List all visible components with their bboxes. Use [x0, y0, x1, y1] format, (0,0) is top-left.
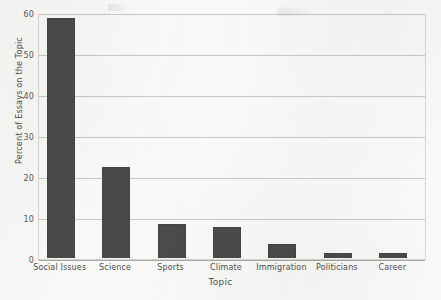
- scan-artifact-smudge-left: [108, 4, 134, 11]
- x-tick-label-social-issues: Social Issues: [33, 263, 86, 272]
- y-tick-label-60: 60: [4, 10, 34, 19]
- bar-series: [39, 15, 425, 259]
- bar-social-issues: [47, 18, 75, 258]
- x-tick-label-politicians: Politicians: [316, 263, 358, 272]
- y-tick-label-40: 40: [4, 92, 34, 101]
- y-tick-label-50: 50: [4, 51, 34, 60]
- x-tick-label-climate: Climate: [210, 263, 242, 272]
- x-axis-title: Topic: [0, 277, 441, 287]
- x-tick-label-science: Science: [99, 263, 131, 272]
- y-tick-label-20: 20: [4, 174, 34, 183]
- y-tick-label-0: 0: [4, 256, 34, 265]
- bar-science: [102, 167, 130, 258]
- x-tick-label-sports: Sports: [157, 263, 184, 272]
- bar-immigration: [268, 244, 296, 258]
- y-tick-label-10: 10: [4, 215, 34, 224]
- bar-sports: [158, 224, 186, 258]
- x-tick-label-immigration: Immigration: [256, 263, 306, 272]
- y-tick-label-30: 30: [4, 133, 34, 142]
- bar-career: [379, 253, 407, 258]
- chart-page: Percent of Essays on the Topic 605040302…: [0, 0, 441, 300]
- gridline-0: [39, 260, 425, 261]
- bar-climate: [213, 227, 241, 258]
- y-axis-tick-labels: 6050403020100: [0, 14, 34, 260]
- x-tick-label-career: Career: [378, 263, 406, 272]
- plot-area: [38, 14, 426, 260]
- bar-politicians: [324, 253, 352, 258]
